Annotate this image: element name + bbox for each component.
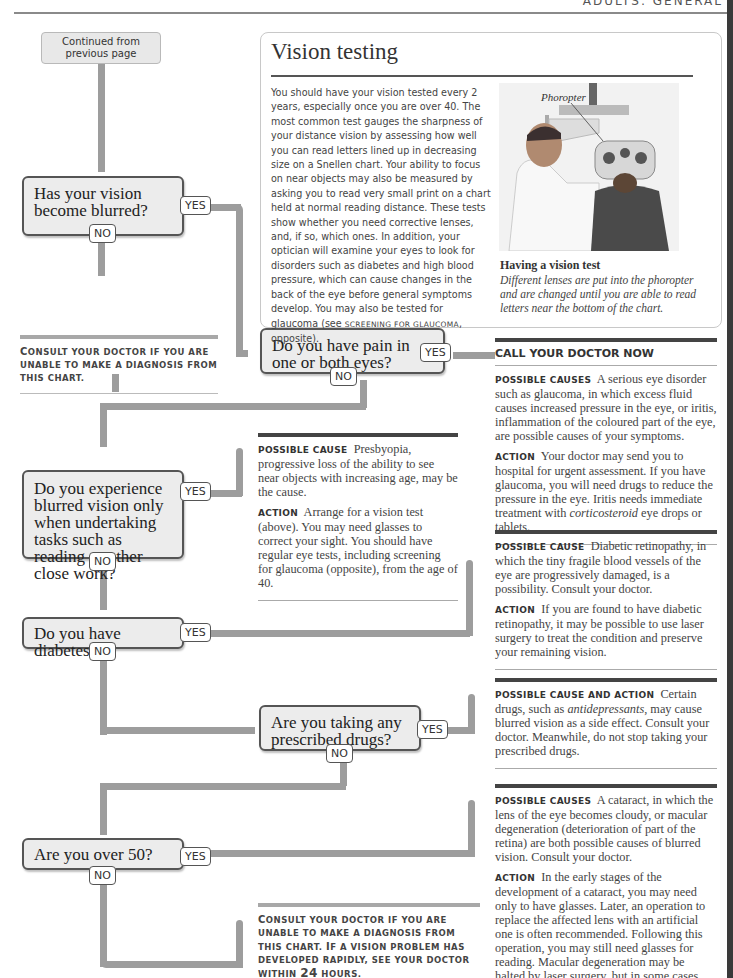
no-button[interactable]: NO [330,367,357,386]
header-rule [14,12,727,14]
result-over-50: Possible causes A cataract, in which the… [495,784,717,978]
title-rule [271,75,693,77]
question-text: Are you over 50? [34,845,153,864]
panel-title: Vision testing [271,39,398,65]
svg-text:Phoropter: Phoropter [540,91,587,103]
page-edge [727,0,733,978]
cross-reference-link[interactable]: Screening for glaucoma [345,320,459,329]
caption-title: Having a vision test [500,258,600,273]
yes-button[interactable]: YES [180,847,211,866]
consult-note-1: Consult your doctor if you are unable to… [20,335,218,394]
continued-from-previous-page[interactable]: Continued from previous page [41,32,161,64]
no-button[interactable]: NO [89,866,116,885]
no-button[interactable]: NO [89,642,116,661]
result-call-doctor-now: CALL YOUR DOCTOR NOW Possible causes A s… [495,338,717,545]
question-close-work[interactable]: Do you experience blurred vision only wh… [22,470,184,559]
yes-button[interactable]: YES [417,720,448,739]
no-button[interactable]: NO [89,224,116,243]
yes-button[interactable]: YES [180,196,211,215]
yes-button[interactable]: YES [180,623,211,642]
no-button[interactable]: NO [89,552,116,571]
result-drugs: Possible cause and action Certain drugs,… [495,678,717,769]
urgent-heading: CALL YOUR DOCTOR NOW [495,347,717,366]
section-header: ADULTS: GENERAL [583,0,723,8]
result-diabetes: Possible cause Diabetic retinopathy, in … [495,530,717,670]
yes-button[interactable]: YES [180,482,211,501]
question-text: Has your vision become blurred? [34,184,148,220]
panel-body: You should have your vision tested every… [271,86,493,346]
caption: Different lenses are put into the phorop… [500,273,712,315]
no-button[interactable]: NO [326,744,353,763]
consult-note-2: Consult your doctor if you are unable to… [258,903,480,978]
result-presbyopia: Possible cause Presbyopia, progressive l… [258,433,458,601]
vision-test-photo: Phoropter [499,83,679,251]
vision-testing-panel: Vision testing You should have your visi… [260,32,722,328]
